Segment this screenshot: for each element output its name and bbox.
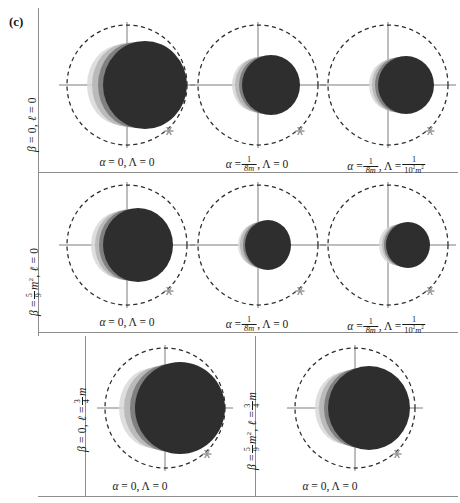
shadow-disk-3 (378, 56, 434, 114)
caption-r2c3: α =18m, Λ =1102m2 (347, 316, 426, 336)
caption-r1c1: α = 0, Λ = 0 (99, 156, 154, 168)
rule-row3-bottom (38, 496, 458, 497)
shadow-disk-3 (103, 208, 173, 282)
fraction-lambda-a: 1102m2 (402, 156, 425, 176)
row-label-1: β = 0, ℓ = 0 (26, 97, 38, 152)
caption-r3c1: α = 0, Λ = 0 (112, 480, 167, 492)
row-label-3-left: β = 0, ℓ =34m (74, 387, 92, 452)
fraction-5-9: 59 (26, 291, 44, 299)
shadow-plot-svg-r3c1 (95, 343, 235, 473)
shadow-plot-r1c1 (57, 20, 197, 150)
caption-r2c2: α =18m, Λ = 0 (226, 316, 289, 334)
fraction-1-8m-c: 18m (242, 316, 256, 334)
shadow-plot-r2c3 (318, 180, 458, 310)
fraction-1-8m-b: 18m (364, 158, 378, 176)
shadow-plot-svg-r1c1 (57, 20, 197, 150)
fraction-1-8m-a: 18m (242, 156, 256, 174)
shadow-plot-r3c2 (285, 343, 425, 473)
shadow-plot-r2c1 (57, 180, 197, 310)
shadow-disk-3 (135, 362, 225, 454)
shadow-plot-svg-r1c2 (188, 20, 328, 150)
row-label-2: β =59m2, ℓ = 0 (26, 248, 44, 316)
shadow-plot-r1c3 (318, 20, 458, 150)
shadow-plot-r2c2 (188, 180, 328, 310)
shadow-disk-3 (103, 41, 187, 129)
shadow-disk-3 (245, 220, 291, 270)
figure-panel-c: (c) β = 0, ℓ = 0 β =59m2, ℓ = 0 β = 0, ℓ… (0, 0, 460, 503)
shadow-disk-3 (386, 222, 430, 268)
shadow-plot-svg-r2c3 (318, 180, 458, 310)
caption-r1c2: α =18m, Λ = 0 (226, 156, 289, 174)
shadow-plot-r1c2 (188, 20, 328, 150)
shadow-disk-3 (328, 366, 410, 450)
figure-tag: (c) (9, 14, 23, 30)
fraction-1-8m-d: 18m (364, 318, 378, 336)
shadow-plot-svg-r2c2 (188, 180, 328, 310)
shadow-plot-svg-r2c1 (57, 180, 197, 310)
shadow-disk-3 (242, 55, 300, 115)
shadow-plot-r3c1 (95, 343, 235, 473)
fraction-5-9-b: 59 (244, 445, 262, 453)
row-label-3-right: β =59m2, ℓ =34m (244, 392, 262, 470)
caption-r2c1: α = 0, Λ = 0 (99, 316, 154, 328)
caption-r1c3: α =18m, Λ =1102m2 (347, 156, 426, 176)
shadow-plot-svg-r3c2 (285, 343, 425, 473)
shadow-plot-svg-r1c3 (318, 20, 458, 150)
caption-r3c2: α = 0, Λ = 0 (302, 480, 357, 492)
fraction-lambda-b: 1102m2 (402, 316, 425, 336)
fraction-3-4: 34 (74, 397, 92, 405)
fraction-3-4-b: 34 (244, 401, 262, 409)
